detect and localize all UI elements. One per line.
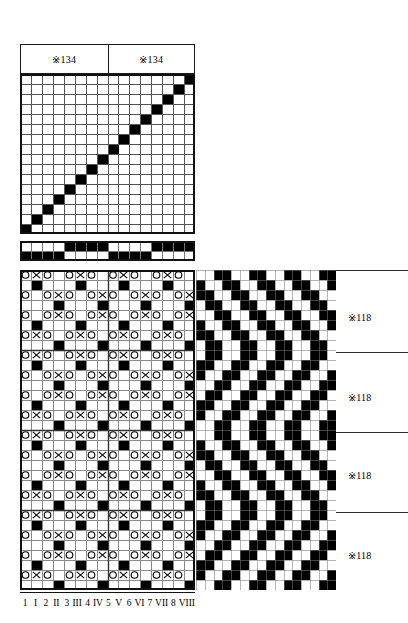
warp-colour-bar	[20, 241, 195, 261]
axis-tick: 7	[145, 599, 155, 609]
threading-draft	[20, 74, 195, 234]
repeat-rule	[336, 352, 408, 353]
header-box-label: ※134	[52, 54, 76, 65]
axis-tick: 3	[62, 599, 72, 609]
repeat-label-2: ※118	[348, 392, 371, 403]
repeat-label-1: ※118	[348, 312, 371, 323]
drawdown-chart	[20, 270, 195, 590]
axis-tick: III	[72, 599, 82, 609]
repeat-rule	[336, 512, 408, 513]
header-box-2: ※134	[108, 44, 196, 74]
axis-tick: VII	[155, 599, 168, 609]
axis-tick: 5	[103, 599, 113, 609]
woven-cloth-pattern	[196, 270, 336, 590]
axis-tick: VIII	[179, 599, 195, 609]
axis-tick: VI	[134, 599, 144, 609]
header-box-label: ※134	[139, 54, 163, 65]
axis-tick: 2	[41, 599, 51, 609]
shaft-numbering: 1I2II3III4IV5V6VI7VII8VIII	[20, 596, 195, 612]
repeat-label-4: ※118	[348, 550, 371, 561]
axis-tick: 4	[82, 599, 92, 609]
repeat-rule	[336, 270, 408, 271]
axis-tick: II	[51, 599, 61, 609]
header-repeat-boxes: ※134 ※134	[20, 44, 195, 74]
axis-tick: 8	[168, 599, 178, 609]
axis-tick: IV	[93, 599, 103, 609]
repeat-label-3: ※118	[348, 470, 371, 481]
axis-tick: 1	[20, 599, 30, 609]
axis-tick: V	[114, 599, 124, 609]
repeat-rule	[336, 432, 408, 433]
axis-tick: I	[30, 599, 40, 609]
draft-page: ※134 ※134 ※118 ※118 ※118 ※118 1I2II3III4…	[0, 0, 408, 623]
axis-rule	[20, 592, 195, 593]
axis-tick: 6	[124, 599, 134, 609]
header-box-1: ※134	[20, 44, 108, 74]
